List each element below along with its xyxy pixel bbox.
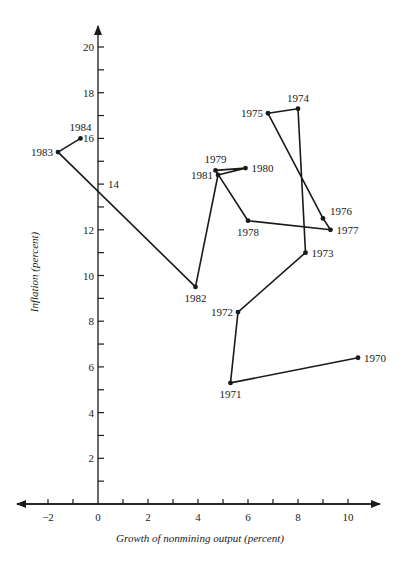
point-label-1979: 1979 xyxy=(205,153,228,165)
y-tick-label: 4 xyxy=(89,407,95,419)
y-tick-label: 14 xyxy=(108,178,120,190)
point-label-1980: 1980 xyxy=(252,162,275,174)
point-label-1975: 1975 xyxy=(241,107,264,119)
x-tick-label: 10 xyxy=(343,511,355,523)
point-label-1982: 1982 xyxy=(185,292,207,304)
x-tick-label: 2 xyxy=(145,511,151,523)
axes xyxy=(17,26,380,504)
point-label-1978: 1978 xyxy=(237,226,260,238)
data-point xyxy=(236,310,241,315)
data-point xyxy=(303,250,308,255)
data-point xyxy=(78,136,83,141)
x-tick-label: 0 xyxy=(95,511,101,523)
y-tick-label: 10 xyxy=(83,270,95,282)
x-tick-label: 4 xyxy=(195,511,201,523)
chart-container: −202468102468101214161820 19701971197219… xyxy=(0,0,407,562)
data-point xyxy=(193,285,198,290)
data-point xyxy=(266,111,271,116)
y-tick-label: 8 xyxy=(89,315,95,327)
point-label-1983: 1983 xyxy=(31,146,54,158)
data-point xyxy=(296,106,301,111)
inflation-growth-chart: −202468102468101214161820 19701971197219… xyxy=(0,0,407,562)
y-tick-label: 2 xyxy=(89,452,95,464)
data-point xyxy=(356,355,361,360)
y-axis-title: Inflation (percent) xyxy=(28,231,41,313)
data-point xyxy=(321,216,326,221)
data-point xyxy=(243,166,248,171)
point-label-1973: 1973 xyxy=(312,247,335,259)
y-tick-label: 6 xyxy=(89,361,95,373)
y-tick-label: 18 xyxy=(83,87,95,99)
x-axis-title: Growth of nonmining output (percent) xyxy=(116,532,284,545)
data-point xyxy=(328,227,333,232)
point-label-1974: 1974 xyxy=(287,92,310,104)
x-tick-label: 8 xyxy=(295,511,301,523)
y-tick-label: 12 xyxy=(83,224,94,236)
y-tick-label: 20 xyxy=(83,41,95,53)
point-label-1972: 1972 xyxy=(211,306,233,318)
data-point xyxy=(228,380,233,385)
y-tick-label: 16 xyxy=(83,132,95,144)
x-tick-label: 6 xyxy=(245,511,251,523)
x-tick-label: −2 xyxy=(42,511,54,523)
point-label-1981: 1981 xyxy=(191,169,213,181)
data-point xyxy=(246,218,251,223)
point-label-1970: 1970 xyxy=(364,352,387,364)
point-label-1976: 1976 xyxy=(330,205,353,217)
data-point xyxy=(213,168,218,173)
data-point xyxy=(56,150,61,155)
point-label-1984: 1984 xyxy=(70,121,93,133)
data-point xyxy=(216,173,221,178)
point-label-1971: 1971 xyxy=(220,388,242,400)
point-label-1977: 1977 xyxy=(337,224,360,236)
axis-ticks: −202468102468101214161820 xyxy=(42,41,354,523)
